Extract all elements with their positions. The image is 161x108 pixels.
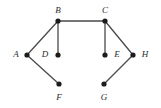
vertex-label-a: A xyxy=(13,50,19,59)
vertex-label-g: G xyxy=(101,93,108,102)
vertex-label-c: C xyxy=(102,6,108,15)
graph-vertex-a xyxy=(24,52,29,57)
vertex-label-d: D xyxy=(42,50,49,59)
vertex-label-e: E xyxy=(114,50,120,59)
graph-edge-a-f xyxy=(27,55,59,84)
graph-canvas xyxy=(0,0,161,108)
vertex-label-h: H xyxy=(142,50,149,59)
graph-figure: ABCDEFGH xyxy=(0,0,161,108)
vertex-label-f: F xyxy=(56,93,62,102)
graph-vertex-h xyxy=(130,52,135,57)
graph-vertex-f xyxy=(56,81,61,86)
vertex-label-b: B xyxy=(55,6,61,15)
graph-vertex-c xyxy=(102,18,107,23)
graph-vertex-b xyxy=(55,18,60,23)
graph-vertex-e xyxy=(102,52,107,57)
graph-vertex-g xyxy=(101,81,106,86)
graph-edge-g-h xyxy=(104,55,133,84)
graph-vertex-d xyxy=(55,52,60,57)
